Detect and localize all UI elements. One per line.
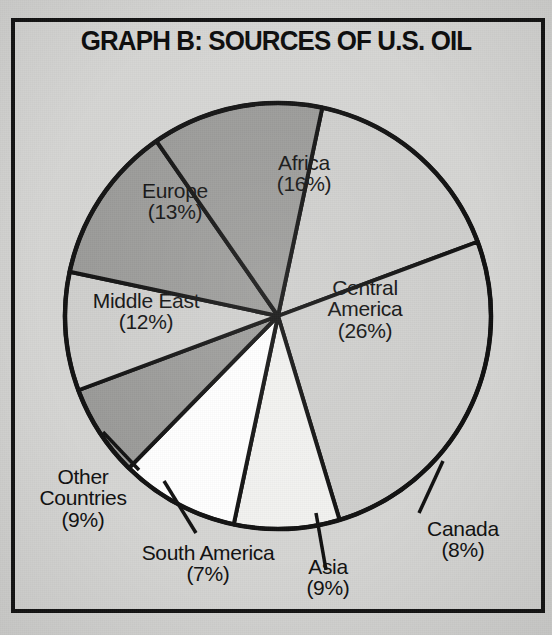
label-central-america-pct: (26%) — [300, 320, 430, 341]
label-africa-pct: (16%) — [244, 173, 364, 194]
label-middle-east-name: Middle East — [66, 290, 226, 311]
label-africa-name: Africa — [244, 152, 364, 173]
label-africa: Africa (16%) — [244, 152, 364, 195]
label-south-america: South America (7%) — [118, 542, 298, 585]
label-central-america: Central America (26%) — [300, 277, 430, 341]
label-central-america-name-1: Central — [300, 277, 430, 298]
label-central-america-name-2: America — [300, 298, 430, 319]
label-south-america-name: South America — [118, 542, 298, 563]
label-other-countries-pct: (9%) — [18, 509, 148, 530]
label-other-countries: Other Countries (9%) — [18, 466, 148, 530]
label-middle-east: Middle East (12%) — [66, 290, 226, 333]
label-europe-pct: (13%) — [115, 201, 235, 222]
label-south-america-pct: (7%) — [118, 563, 298, 584]
label-asia-pct: (9%) — [288, 577, 368, 598]
label-canada: Canada (8%) — [408, 518, 518, 561]
label-europe: Europe (13%) — [115, 180, 235, 223]
label-other-countries-name-1: Other — [18, 466, 148, 487]
label-asia: Asia (9%) — [288, 556, 368, 599]
label-canada-pct: (8%) — [408, 539, 518, 560]
label-europe-name: Europe — [115, 180, 235, 201]
label-canada-name: Canada — [408, 518, 518, 539]
label-middle-east-pct: (12%) — [66, 311, 226, 332]
label-other-countries-name-2: Countries — [18, 487, 148, 508]
label-asia-name: Asia — [288, 556, 368, 577]
